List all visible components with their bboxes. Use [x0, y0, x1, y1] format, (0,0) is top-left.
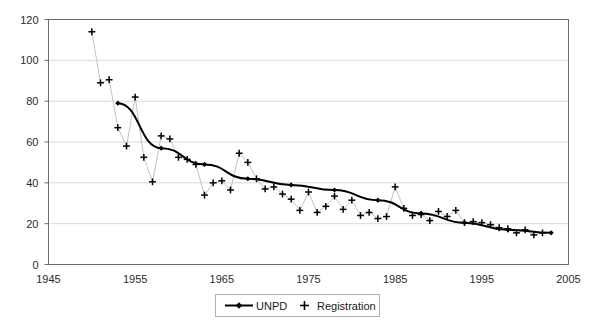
y-axis-tick-label: 20: [26, 218, 38, 230]
y-axis-tick-label: 120: [20, 14, 38, 26]
y-axis-tick-label: 80: [26, 95, 38, 107]
y-axis-tick-label: 40: [26, 177, 38, 189]
chart-legend: UNPD Registration: [216, 295, 380, 317]
y-axis-tick-label: 0: [32, 259, 38, 271]
x-axis-tick-label: 1995: [470, 273, 494, 285]
legend-label-unpd: UNPD: [256, 300, 287, 312]
x-axis-tick-label: 1945: [36, 273, 60, 285]
x-axis-tick-label: 1985: [383, 273, 407, 285]
x-axis-tick-label: 1965: [210, 273, 234, 285]
chart-container: 020406080100120 194519551965197519851995…: [0, 0, 595, 327]
x-axis-tick-label: 1955: [123, 273, 147, 285]
x-axis-tick-label: 2005: [556, 273, 580, 285]
legend-label-registration: Registration: [317, 300, 376, 312]
y-axis-tick-label: 60: [26, 136, 38, 148]
infant-mortality-line-chart: 020406080100120 194519551965197519851995…: [0, 0, 595, 327]
x-axis-tick-label: 1975: [296, 273, 320, 285]
y-axis-tick-label: 100: [20, 54, 38, 66]
